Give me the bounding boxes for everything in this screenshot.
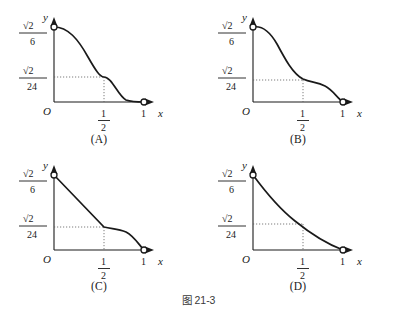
origin-label-D: O <box>242 253 250 265</box>
panel-label-A: (A) <box>0 133 198 145</box>
panel-label-D: (D) <box>199 280 397 292</box>
x-tick-mid-numerator-D: 1 <box>300 256 305 267</box>
x-tick-mid-numerator-B: 1 <box>300 108 305 119</box>
panel-C-plot: √2 6 √2 24 y x O 1 <box>0 150 198 282</box>
y-tick-high-numerator-D: √2 <box>222 168 233 179</box>
end-endpoint-D <box>340 247 346 253</box>
x-axis-name-D: x <box>356 255 362 267</box>
x-tick-end-B: 1 <box>340 108 345 119</box>
panel-B-plot: √2 6 √2 24 y x O 1 <box>199 2 397 134</box>
panel-D: √2 6 √2 24 y x O 1 <box>199 150 397 296</box>
y-tick-low-numerator-A: √2 <box>23 65 34 76</box>
panel-B: √2 6 √2 24 y x O 1 <box>199 2 397 148</box>
y-tick-low-numerator-D: √2 <box>222 213 233 224</box>
y-tick-high-denominator-D: 6 <box>229 184 234 195</box>
figure-caption: 图 21-3 <box>0 292 397 307</box>
x-tick-mid-numerator-C: 1 <box>101 256 106 267</box>
y-axis-tick-low-B: √2 24 <box>218 65 246 92</box>
y-axis-tick-low-D: √2 24 <box>218 213 246 240</box>
y-tick-high-numerator-B: √2 <box>222 20 233 31</box>
panel-C: √2 6 √2 24 y x O 1 <box>0 150 198 296</box>
x-tick-mid-C: 1 2 <box>98 256 110 281</box>
y-axis-name-D: y <box>241 159 247 171</box>
start-endpoint-A <box>51 24 57 30</box>
x-tick-mid-A: 1 2 <box>98 108 110 133</box>
y-axis-tick-low-A: √2 24 <box>19 65 47 92</box>
panel-A-plot: √2 6 √2 24 y x O <box>0 2 198 134</box>
start-endpoint-C <box>51 172 57 178</box>
y-tick-low-denominator-D: 24 <box>226 229 236 240</box>
y-tick-high-denominator-B: 6 <box>229 36 234 47</box>
x-axis-name-A: x <box>157 107 163 119</box>
end-endpoint-A <box>141 99 147 105</box>
y-tick-low-numerator-B: √2 <box>222 65 233 76</box>
y-tick-low-denominator-B: 24 <box>226 81 236 92</box>
x-tick-end-C: 1 <box>141 256 146 267</box>
curve-C <box>54 175 144 250</box>
origin-label-B: O <box>242 105 250 117</box>
panel-A: √2 6 √2 24 y x O <box>0 2 198 148</box>
end-endpoint-B <box>340 99 346 105</box>
y-tick-high-numerator-C: √2 <box>23 168 34 179</box>
x-axis-name-C: x <box>157 255 163 267</box>
panel-label-C: (C) <box>0 280 198 292</box>
start-endpoint-B <box>250 24 256 30</box>
x-tick-mid-D: 1 2 <box>297 256 309 281</box>
y-tick-low-denominator-C: 24 <box>27 229 37 240</box>
y-tick-low-denominator-A: 24 <box>27 81 37 92</box>
y-axis-tick-high-C: √2 6 <box>19 168 47 195</box>
x-tick-mid-B: 1 2 <box>297 108 309 133</box>
y-axis-tick-high-A: √2 6 <box>19 20 47 47</box>
y-axis-name-B: y <box>241 11 247 23</box>
curve-D <box>253 175 343 250</box>
y-axis-tick-high-D: √2 6 <box>218 168 246 195</box>
x-tick-mid-denominator-B: 2 <box>300 122 305 133</box>
y-tick-low-numerator-C: √2 <box>23 213 34 224</box>
x-tick-mid-denominator-A: 2 <box>101 122 106 133</box>
origin-label-C: O <box>43 253 51 265</box>
curve-A <box>54 27 144 102</box>
y-axis-name-A: y <box>42 11 48 23</box>
panel-label-B: (B) <box>199 133 397 145</box>
y-axis-tick-low-C: √2 24 <box>19 213 47 240</box>
figure-panels-grid: √2 6 √2 24 y x O <box>0 0 397 292</box>
y-tick-high-denominator-C: 6 <box>30 184 35 195</box>
y-axis-tick-high-B: √2 6 <box>218 20 246 47</box>
y-axis-name-C: y <box>42 159 48 171</box>
end-endpoint-C <box>141 247 147 253</box>
x-tick-mid-numerator-A: 1 <box>101 108 106 119</box>
x-tick-end-A: 1 <box>141 108 146 119</box>
curve-B <box>253 27 343 102</box>
x-axis-name-B: x <box>356 107 362 119</box>
x-tick-end-D: 1 <box>340 256 345 267</box>
y-tick-high-denominator-A: 6 <box>30 36 35 47</box>
y-tick-high-numerator-A: √2 <box>23 20 34 31</box>
start-endpoint-D <box>250 172 256 178</box>
panel-D-plot: √2 6 √2 24 y x O 1 <box>199 150 397 282</box>
origin-label-A: O <box>43 105 51 117</box>
